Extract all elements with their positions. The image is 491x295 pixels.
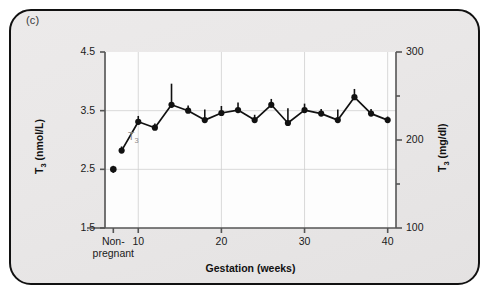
x-tick-40: 40: [358, 235, 418, 247]
np-line1: Non-: [102, 235, 125, 247]
x-tick-20: 20: [191, 235, 251, 247]
gridlines: [105, 52, 396, 228]
series-line: [122, 97, 388, 150]
x-tick-30: 30: [275, 235, 335, 247]
tick-marks: [100, 52, 402, 233]
series-annotation-sub: 3: [135, 136, 139, 145]
y2-axis-title-text: T: [436, 166, 448, 172]
np-line2: pregnant: [93, 247, 134, 259]
y-tick-4.5: 4.5: [61, 45, 95, 57]
y2-axis-title-sub: 3: [442, 161, 451, 165]
y-axis-title-unit: (nmol/L): [33, 119, 45, 163]
series-annotation-t3: T3: [128, 130, 139, 145]
y-tick-3.5: 3.5: [61, 104, 95, 116]
y-axis-title: T3 (nmol/L): [33, 119, 48, 174]
figure-panel: (c) 1.52.53.54.5 100200300 10203040 Non-…: [0, 0, 491, 295]
y-tick-1.5: 1.5: [61, 221, 95, 233]
x-axis-title: Gestation (weeks): [171, 262, 331, 274]
y2-axis-title-unit: (mg/dl): [436, 123, 448, 161]
x-tick-non-pregnant: Non- pregnant: [78, 235, 148, 259]
y-axis-title-text: T: [33, 168, 45, 174]
y2-tick-300: 300: [406, 45, 446, 57]
y-axis-title-sub: 3: [39, 163, 48, 167]
y2-axis-title: T3 (mg/dl): [436, 123, 451, 172]
plot-area: 1.52.53.54.5 100200300 10203040 Non- pre…: [0, 0, 491, 295]
y2-tick-100: 100: [406, 221, 446, 233]
y-tick-2.5: 2.5: [61, 162, 95, 174]
